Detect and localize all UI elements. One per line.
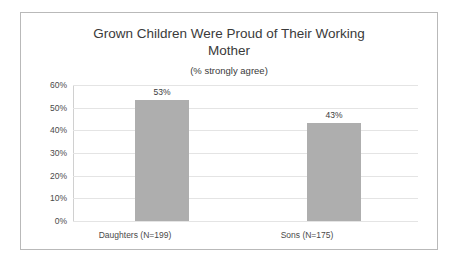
y-tick-label-30: 30% — [50, 148, 67, 158]
chart-card: Grown Children Were Proud of Their Worki… — [20, 12, 438, 250]
gridline-40: 40% — [73, 130, 418, 131]
bar-daughters[interactable]: 53% Daughters (N=199) — [135, 100, 189, 221]
y-tick-label-40: 40% — [50, 125, 67, 135]
chart-title-block: Grown Children Were Proud of Their Worki… — [21, 25, 437, 76]
gridline-60: 60% — [73, 85, 418, 86]
page-title: Grown Children Were Proud of Their Worki… — [21, 25, 437, 59]
x-tick-label-sons: Sons (N=175) — [281, 230, 334, 240]
gridline-10: 10% — [73, 198, 418, 199]
y-tick-label-60: 60% — [50, 80, 67, 90]
gridline-0: 0% — [73, 221, 418, 222]
chart-subtitle: (% strongly agree) — [21, 65, 437, 76]
y-tick-label-20: 20% — [50, 171, 67, 181]
gridline-50: 50% — [73, 108, 418, 109]
gridline-30: 30% — [73, 153, 418, 154]
plot-area: 0% 10% 20% 30% 40% 50% 60% 53% Daughters… — [73, 85, 418, 222]
y-tick-label-50: 50% — [50, 103, 67, 113]
x-tick-label-daughters: Daughters (N=199) — [99, 230, 172, 240]
bar-value-sons: 43% — [325, 110, 342, 120]
y-tick-label-10: 10% — [50, 193, 67, 203]
bar-sons[interactable]: 43% Sons (N=175) — [307, 123, 361, 221]
y-tick-label-0: 0% — [55, 216, 67, 226]
bar-value-daughters: 53% — [153, 87, 170, 97]
gridline-20: 20% — [73, 176, 418, 177]
